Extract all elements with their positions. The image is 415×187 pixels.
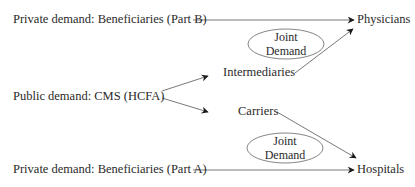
- intermediaries-label: Intermediaries: [223, 66, 295, 79]
- public-demand-cms-label: Public demand: CMS (HCFA): [13, 90, 165, 103]
- edge-cms-carriers: [162, 98, 208, 112]
- joint-demand-top: Joint Demand: [247, 30, 325, 58]
- private-demand-part-b-label: Private demand: Beneficiaries (Part B): [13, 13, 207, 26]
- joint-demand-bottom: Joint Demand: [246, 134, 324, 162]
- private-demand-part-a-label: Private demand: Beneficiaries (Part A): [13, 163, 207, 176]
- physicians-label: Physicians: [357, 13, 410, 26]
- joint-demand-bottom-line1: Joint: [246, 134, 324, 148]
- carriers-label: Carriers: [238, 105, 278, 118]
- joint-demand-top-line2: Demand: [247, 44, 325, 58]
- edge-cms-intermediaries: [162, 76, 208, 91]
- joint-demand-top-line1: Joint: [247, 30, 325, 44]
- joint-demand-bottom-line2: Demand: [246, 148, 324, 162]
- hospitals-label: Hospitals: [357, 163, 404, 176]
